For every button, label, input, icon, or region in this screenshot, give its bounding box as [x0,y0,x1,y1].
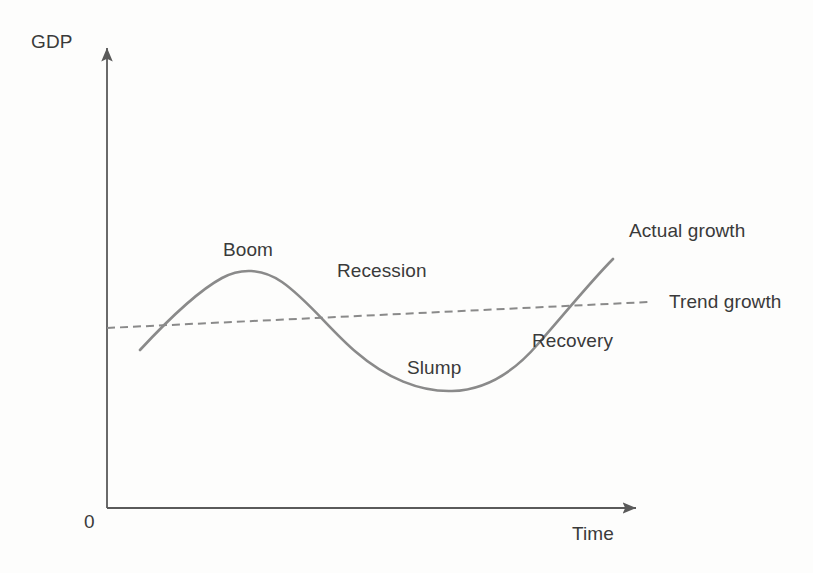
trend-growth-line [107,302,648,328]
origin-label: 0 [84,511,95,532]
x-axis-label: Time [572,523,614,544]
y-axis-label: GDP [31,31,72,52]
legend-actual-growth: Actual growth [629,220,745,241]
legend-trend-growth: Trend growth [669,291,781,312]
diagram-canvas [0,0,813,573]
annotation-boom: Boom [223,239,273,260]
annotation-recession: Recession [337,260,427,281]
annotation-recovery: Recovery [532,330,613,351]
business-cycle-figure: GDP Time 0 Boom Recession Slump Recovery… [0,0,813,573]
annotation-slump: Slump [407,357,461,378]
